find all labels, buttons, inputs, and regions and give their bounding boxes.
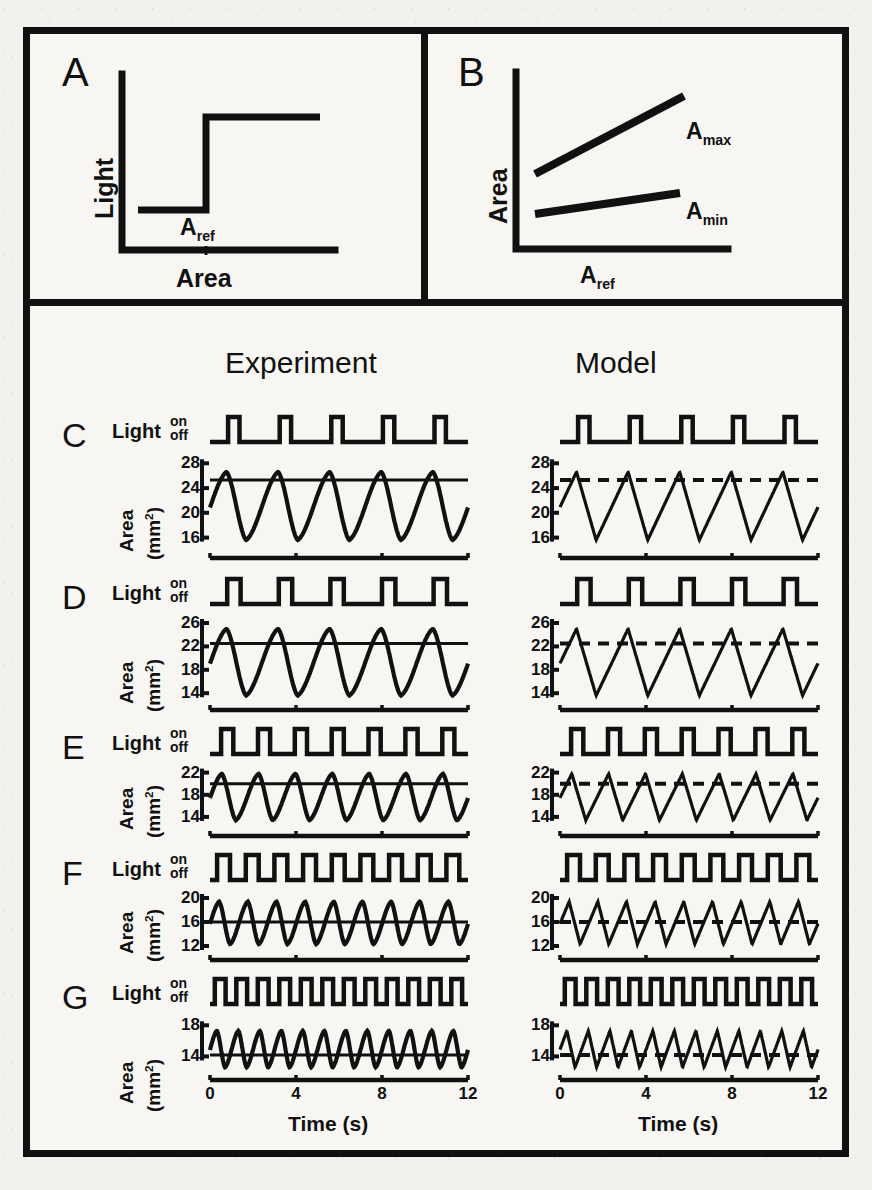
model-plot-d	[560, 568, 832, 718]
model-plot-c	[560, 406, 832, 566]
ytick-label: 24	[516, 478, 550, 498]
xtick-label: 12	[805, 1084, 831, 1104]
light-label: Light	[112, 858, 161, 881]
row-letter-g: G	[62, 980, 88, 1014]
model-plot-e	[560, 718, 832, 844]
panel-b: B Area Aref Amax Amin	[428, 34, 842, 299]
panel-a-axes	[122, 74, 335, 250]
panel-a-step-curve	[138, 117, 320, 210]
experiment-plot-f	[210, 844, 482, 968]
ytick-label: 18	[516, 660, 550, 680]
area-unit-label: (mm2)	[142, 909, 165, 962]
ytick-label: 18	[516, 785, 550, 805]
light-trace	[560, 979, 818, 1004]
light-off-label: off	[170, 866, 188, 880]
ytick-label: 12	[166, 936, 200, 956]
ytick-label: 14	[516, 1046, 550, 1066]
ytick-label: 20	[166, 503, 200, 523]
ytick-label: 16	[516, 528, 550, 548]
ytick-label: 26	[516, 613, 550, 633]
light-on-label: on	[170, 726, 188, 740]
light-off-label: off	[170, 590, 188, 604]
area-axis-label: Area	[116, 662, 138, 704]
light-off-label: off	[170, 740, 188, 754]
trace-panel-row: Experiment Model CLightonoffArea(mm2)161…	[30, 306, 842, 1150]
area-trace	[560, 774, 818, 821]
column-header-model: Model	[575, 346, 657, 380]
model-plot-f	[560, 844, 832, 968]
light-label: Light	[112, 420, 161, 443]
trace-row-f: FLightonoffArea(mm2)121216162020	[30, 844, 842, 968]
experiment-plot-d	[210, 568, 482, 718]
ytick-label: 20	[166, 888, 200, 908]
light-on-label: on	[170, 852, 188, 866]
light-on-label: on	[170, 576, 188, 590]
area-axis-label: Area	[116, 912, 138, 954]
panel-a-plot	[30, 34, 428, 306]
row-letter-c: C	[62, 418, 87, 452]
light-trace	[560, 855, 818, 880]
light-on-off-label: onoff	[170, 414, 188, 443]
light-on-off-label: onoff	[170, 726, 188, 755]
top-panel-row: A Light Area Aref B Area	[30, 34, 842, 306]
ytick-label: 18	[166, 1015, 200, 1035]
light-on-off-label: onoff	[170, 576, 188, 605]
area-unit-label: (mm2)	[142, 507, 165, 560]
ytick-label: 20	[516, 503, 550, 523]
ytick-label: 22	[516, 636, 550, 656]
row-letter-d: D	[62, 580, 87, 614]
light-off-label: off	[170, 428, 188, 442]
light-trace	[560, 729, 818, 754]
trace-row-c: CLightonoffArea(mm2)1616202024242828	[30, 406, 842, 566]
model-plot-g	[560, 968, 832, 1118]
area-unit-label: (mm2)	[142, 659, 165, 712]
xtick-label: 0	[197, 1084, 223, 1104]
light-on-label: on	[170, 976, 188, 990]
area-trace	[210, 472, 468, 540]
area-trace	[560, 472, 818, 540]
area-trace	[560, 629, 818, 695]
ytick-label: 18	[516, 1015, 550, 1035]
light-label: Light	[112, 732, 161, 755]
x-axis-title: Time (s)	[638, 1112, 718, 1136]
light-trace	[210, 579, 468, 604]
light-on-off-label: onoff	[170, 976, 188, 1005]
light-trace	[560, 579, 818, 604]
xtick-label: 12	[455, 1084, 481, 1104]
row-letter-e: E	[62, 730, 85, 764]
area-trace	[210, 774, 468, 821]
ytick-label: 18	[166, 785, 200, 805]
ytick-label: 18	[166, 660, 200, 680]
area-axis-label: Area	[116, 510, 138, 552]
panel-b-amin-line	[535, 193, 680, 214]
light-trace	[210, 417, 468, 442]
trace-row-d: DLightonoffArea(mm2)1414181822222626	[30, 568, 842, 718]
ytick-label: 24	[166, 478, 200, 498]
experiment-plot-e	[210, 718, 482, 844]
column-header-experiment: Experiment	[225, 346, 377, 380]
figure-page: A Light Area Aref B Area	[0, 0, 872, 1190]
ytick-label: 12	[516, 936, 550, 956]
light-label: Light	[112, 582, 161, 605]
xtick-label: 4	[283, 1084, 309, 1104]
ytick-label: 16	[516, 912, 550, 932]
x-axis-title: Time (s)	[288, 1112, 368, 1136]
trace-row-g: GLightonoffArea(mm2)1414181804812Time (s…	[30, 968, 842, 1118]
trace-row-e: ELightonoffArea(mm2)141418182222	[30, 718, 842, 844]
ytick-label: 14	[516, 807, 550, 827]
ytick-label: 26	[166, 613, 200, 633]
ytick-label: 16	[166, 912, 200, 932]
light-trace	[210, 979, 468, 1004]
light-on-label: on	[170, 414, 188, 428]
area-trace	[210, 629, 468, 696]
ytick-label: 20	[516, 888, 550, 908]
area-trace	[560, 1031, 818, 1067]
ytick-label: 22	[516, 763, 550, 783]
ytick-label: 14	[166, 683, 200, 703]
light-trace	[210, 729, 468, 754]
ytick-label: 14	[516, 683, 550, 703]
xtick-label: 8	[369, 1084, 395, 1104]
experiment-plot-c	[210, 406, 482, 566]
area-axis-label: Area	[116, 788, 138, 830]
light-trace	[560, 417, 818, 442]
